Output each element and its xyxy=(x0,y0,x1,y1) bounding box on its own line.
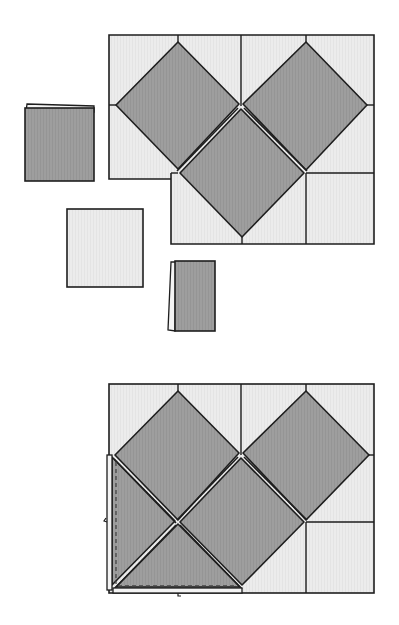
left-fold-flap xyxy=(107,455,112,590)
diagram-canvas: Quilt-style tiling puzzle: dark grey squ… xyxy=(0,0,399,625)
folded-dark-square-left xyxy=(25,104,94,181)
step-2-panel xyxy=(104,384,374,596)
light-square-piece xyxy=(67,209,143,287)
step-1-panel xyxy=(25,35,374,331)
tiling-diagram-svg xyxy=(0,0,399,625)
bottom-fold-flap xyxy=(113,588,242,593)
folded-dark-square-bottom xyxy=(168,261,215,331)
